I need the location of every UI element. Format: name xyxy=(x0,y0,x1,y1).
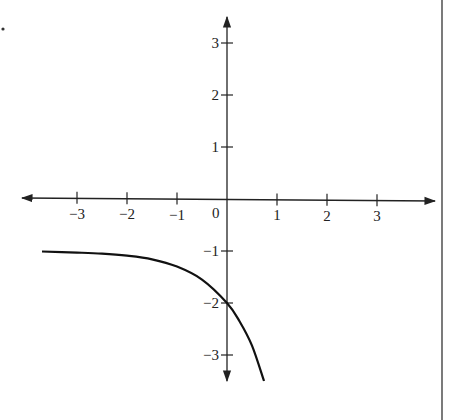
curve-series xyxy=(42,252,264,381)
y-tick-label: −1 xyxy=(203,243,219,259)
marker-dot xyxy=(1,27,4,30)
x-axis xyxy=(22,198,435,201)
y-tick-label: 3 xyxy=(212,35,220,51)
x-tick-label: 1 xyxy=(273,207,281,223)
x-tick-label: −1 xyxy=(169,207,185,223)
y-tick-label: 2 xyxy=(212,87,220,103)
chart-area: −3−2−1123 321−1−2−3 0 xyxy=(0,0,449,420)
y-tick-label: −3 xyxy=(203,347,219,363)
x-ticks: −3−2−1123 xyxy=(69,192,381,224)
y-tick-label: 1 xyxy=(212,139,220,155)
chart-svg: −3−2−1123 321−1−2−3 0 xyxy=(0,0,449,420)
x-tick-label: 3 xyxy=(373,208,381,224)
x-tick-label: −2 xyxy=(119,206,135,222)
y-tick-label: −2 xyxy=(203,295,219,311)
x-tick-label: 2 xyxy=(323,208,331,224)
origin-label: 0 xyxy=(212,205,220,221)
x-tick-label: −3 xyxy=(69,206,85,222)
